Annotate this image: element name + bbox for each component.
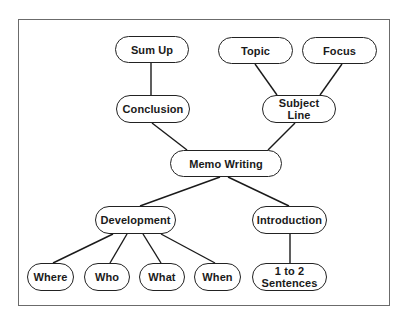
node-who: Who	[84, 263, 130, 291]
node-introduction: Introduction	[252, 206, 327, 234]
edge-subject-memo	[268, 123, 295, 150]
edge-development-where	[53, 234, 113, 263]
edge-development-when	[161, 234, 215, 263]
node-when: When	[194, 263, 241, 291]
node-where: Where	[27, 263, 74, 291]
edge-memo-development	[140, 177, 220, 206]
node-development: Development	[95, 206, 176, 234]
edge-memo-introduction	[228, 177, 289, 206]
node-topic: Topic	[218, 37, 293, 64]
edge-conclusion-memo	[152, 123, 187, 150]
node-sentences: 1 to 2 Sentences	[252, 263, 327, 291]
node-what: What	[139, 263, 185, 291]
edge-development-who	[110, 234, 127, 263]
edge-development-what	[143, 234, 161, 263]
node-sum-up: Sum Up	[115, 36, 189, 63]
node-conclusion: Conclusion	[116, 95, 190, 123]
node-subject-line: Subject Line	[262, 95, 336, 123]
node-focus: Focus	[302, 37, 377, 64]
edge-focus-subject	[320, 64, 342, 95]
node-memo-writing: Memo Writing	[170, 150, 282, 177]
edge-topic-subject	[255, 64, 277, 95]
